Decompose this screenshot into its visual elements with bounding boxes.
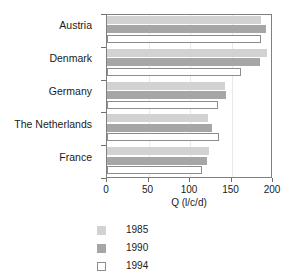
bar-france-1985 — [107, 147, 209, 155]
x-axis-title: Q (l/c/d) — [106, 197, 272, 209]
category-label: France — [0, 152, 92, 163]
bar-denmark-1994 — [107, 68, 241, 76]
x-axis-tick-label: 150 — [216, 184, 246, 195]
y-axis-tick — [101, 14, 106, 15]
y-axis-tick — [101, 112, 106, 113]
bar-france-1994 — [107, 166, 202, 174]
y-axis-tick — [101, 80, 106, 81]
bar-denmark-1985 — [107, 49, 267, 57]
legend-swatch-1985 — [97, 226, 106, 235]
x-axis-tick-label: 0 — [91, 184, 121, 195]
category-label: Austria — [0, 20, 92, 31]
y-axis-tick — [101, 47, 106, 48]
legend-swatch-1990 — [97, 244, 106, 253]
bar-france-1990 — [107, 157, 207, 165]
y-axis-category-labels: AustriaDenmarkGermanyThe NetherlandsFran… — [0, 12, 99, 178]
bar-germany-1994 — [107, 101, 218, 109]
y-axis-tick — [101, 145, 106, 146]
bar-austria-1994 — [107, 35, 261, 43]
x-axis-tick-label: 100 — [174, 184, 204, 195]
y-axis-tick — [101, 178, 106, 179]
legend-swatch-1994 — [97, 262, 106, 271]
legend-label-1985: 1985 — [126, 224, 148, 236]
bar-denmark-1990 — [107, 58, 260, 66]
bar-germany-1985 — [107, 82, 225, 90]
category-label: Denmark — [0, 53, 92, 64]
x-axis-tick — [106, 178, 107, 182]
category-label: The Netherlands — [0, 119, 92, 130]
legend-item: 1994 — [97, 258, 217, 276]
bar-austria-1990 — [107, 25, 266, 33]
bar-austria-1985 — [107, 16, 261, 24]
legend-item: 1985 — [97, 222, 217, 240]
legend-label-1994: 1994 — [126, 260, 148, 272]
bar-the-netherlands-1994 — [107, 133, 219, 141]
bar-the-netherlands-1990 — [107, 124, 212, 132]
legend: 198519901994 — [97, 222, 217, 276]
x-axis-tick-label: 200 — [257, 184, 287, 195]
bar-chart: AustriaDenmarkGermanyThe NetherlandsFran… — [0, 0, 302, 278]
category-label: Germany — [0, 86, 92, 97]
x-axis-tick-label: 50 — [133, 184, 163, 195]
x-axis-tick — [231, 178, 232, 182]
x-axis-tick — [148, 178, 149, 182]
bar-germany-1990 — [107, 91, 226, 99]
plot-area — [106, 14, 272, 178]
legend-label-1990: 1990 — [126, 242, 148, 254]
x-axis-tick — [272, 178, 273, 182]
legend-item: 1990 — [97, 240, 217, 258]
x-axis-tick — [189, 178, 190, 182]
bar-the-netherlands-1985 — [107, 114, 208, 122]
